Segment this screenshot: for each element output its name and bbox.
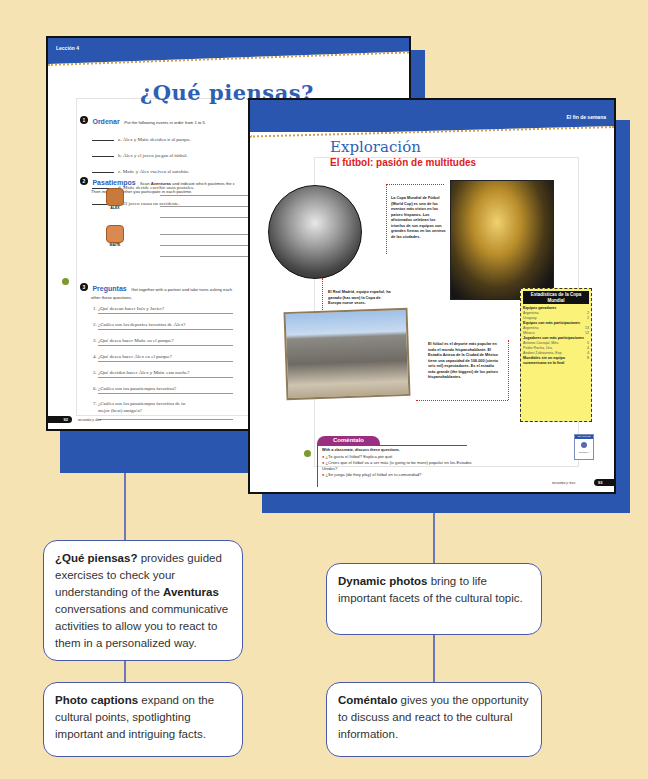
page-number-tab: 93 [594, 479, 616, 486]
exercise-number: 3 [80, 283, 88, 291]
pair-activity-icon [304, 450, 311, 457]
answer-line[interactable] [98, 345, 233, 346]
comentalo-content: With a classmate, discuss these question… [322, 448, 472, 478]
cd-icon [581, 442, 587, 448]
callout-dynamic-photos: Dynamic photos bring to life important f… [326, 563, 542, 635]
section-label: El fin de semana [567, 114, 606, 120]
connector-line [433, 513, 435, 563]
ordenar-item: b. Álex y el joven juegan al fútbol. [118, 153, 188, 158]
real-madrid-caption: El Real Madrid, equipo español, ha ganad… [328, 290, 394, 307]
answer-line[interactable] [98, 329, 233, 330]
world-cup-trophy-photo [450, 180, 554, 300]
answer-line[interactable] [98, 313, 233, 314]
pair-activity-icon [62, 278, 69, 285]
comentalo-tab: Coméntalo [317, 436, 380, 445]
answer-blank[interactable] [92, 156, 114, 157]
answer-line[interactable] [160, 217, 260, 218]
answer-line[interactable] [160, 245, 260, 246]
answer-line[interactable] [160, 195, 260, 196]
page-number-words: noventa y dos [78, 417, 101, 422]
answer-blank[interactable] [92, 140, 114, 141]
lesson-label: Lección 4 [56, 45, 79, 51]
exercise-number: 1 [80, 116, 88, 124]
answer-line[interactable] [160, 256, 260, 257]
exercise-number: 2 [80, 177, 88, 185]
answer-line[interactable] [98, 377, 233, 378]
answer-line[interactable] [98, 361, 233, 362]
answer-line[interactable] [160, 206, 260, 207]
real-madrid-photo [268, 185, 362, 279]
right-page: El fin de semana Exploración El fútbol: … [248, 98, 616, 494]
practice-badge[interactable]: PRACTICE Lección 4 [574, 434, 594, 460]
stats-title: Estadísticas de la Copa Mundial [523, 291, 589, 304]
world-cup-stats-box: Estadísticas de la Copa Mundial Equipos … [520, 288, 592, 422]
exercise-instructions: Put the following events in order from 1… [124, 120, 206, 125]
avatar [106, 225, 124, 243]
exercise-title: Ordenar [92, 118, 119, 125]
answer-line[interactable] [160, 234, 260, 235]
answer-line[interactable] [98, 393, 233, 394]
page-number-tab: 92 [48, 416, 72, 423]
maite-photo: MAITE [106, 225, 124, 247]
alex-photo: ALEX [106, 188, 124, 210]
stadium-caption: El fútbol es el deporte más popular en t… [428, 342, 500, 381]
connector-line [124, 473, 126, 540]
answer-line[interactable] [98, 419, 233, 420]
estadio-azteca-photo [284, 308, 411, 400]
worldcup-caption: La Copa Mundial de Fútbol (World Cup) es… [391, 196, 447, 240]
exercise-title: Preguntas [92, 285, 126, 292]
page-subtitle: El fútbol: pasión de multitudes [330, 157, 476, 168]
ordenar-item: a. Álex y Maite deciden ir al parque. [118, 137, 191, 142]
connector-line [433, 634, 435, 682]
callout-que-piensas: ¿Qué piensas? provides guided exercises … [43, 540, 243, 661]
callout-photo-captions: Photo captions expand on the cultural po… [43, 682, 243, 757]
callout-comentalo: Coméntalo gives you the opportunity to d… [326, 682, 542, 757]
connector-line [124, 660, 126, 682]
page-number-words: noventa y tres [552, 480, 575, 485]
exercise-title: Pasatiempos [92, 179, 135, 186]
page-title: Exploración [330, 138, 421, 156]
avatar [106, 188, 124, 206]
